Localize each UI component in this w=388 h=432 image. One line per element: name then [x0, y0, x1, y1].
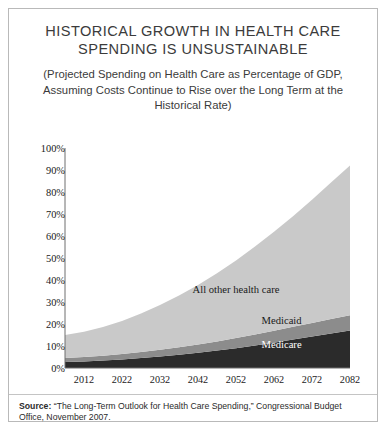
series-label-all-other-health-care: All other health care — [193, 283, 280, 294]
x-axis-labels: 20122022203220422052206220722082 — [9, 127, 377, 382]
source-note: Source: “The Long-Term Outlook for Healt… — [19, 401, 367, 424]
source-divider — [9, 394, 377, 395]
chart-subtitle: (Projected Spending on Health Care as Pe… — [29, 67, 357, 114]
x-tick-label: 2052 — [226, 374, 246, 385]
chart-card: HISTORICAL GROWTH IN HEALTH CARE SPENDIN… — [8, 8, 378, 422]
x-tick-label: 2062 — [264, 374, 284, 385]
chart-plot-area: 0%10%20%30%40%50%60%70%80%90%100% 201220… — [9, 127, 377, 382]
series-label-medicare: Medicare — [262, 338, 302, 349]
x-tick-label: 2022 — [112, 374, 132, 385]
x-tick-label: 2042 — [188, 374, 208, 385]
x-tick-label: 2072 — [302, 374, 322, 385]
x-tick-label: 2082 — [340, 374, 360, 385]
source-label: Source: — [19, 401, 51, 411]
x-tick-label: 2012 — [74, 374, 94, 385]
chart-title: HISTORICAL GROWTH IN HEALTH CARE SPENDIN… — [23, 22, 363, 58]
series-label-medicaid: Medicaid — [262, 314, 302, 325]
source-text: “The Long-Term Outlook for Health Care S… — [19, 401, 342, 422]
x-tick-label: 2032 — [150, 374, 170, 385]
